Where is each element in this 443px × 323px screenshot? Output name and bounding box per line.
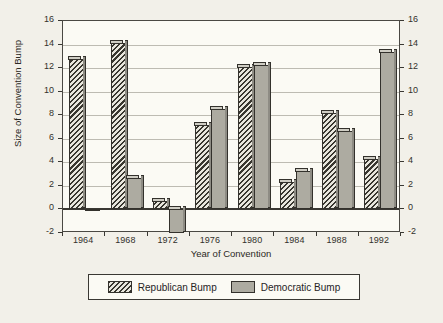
y-tick-label-left: 4 xyxy=(28,156,54,165)
bar-1968-democratic xyxy=(127,178,142,210)
bar-1984-democratic xyxy=(296,171,311,210)
y-tick-label-left: -2 xyxy=(28,227,54,236)
y-tickmark-right xyxy=(400,114,404,115)
bar-top-face xyxy=(168,206,181,210)
legend-label-republican: Republican Bump xyxy=(138,282,217,293)
y-axis-title: Size of Convention Bump xyxy=(12,14,23,174)
legend-swatch-democratic-icon xyxy=(231,281,255,293)
y-tick-label-right: 2 xyxy=(408,180,434,189)
bar-side-face xyxy=(225,106,228,208)
legend-item-republican: Republican Bump xyxy=(108,281,217,293)
x-tick-label-1988: 1988 xyxy=(317,235,357,246)
y-tick-label-left: 10 xyxy=(28,86,54,95)
bar-top-face xyxy=(152,198,165,202)
bar-1972-democratic xyxy=(169,209,184,233)
y-tickmark-right xyxy=(400,138,404,139)
bar-top-face xyxy=(321,110,334,114)
x-tick-label-1992: 1992 xyxy=(359,235,399,246)
y-tick-label-right: 14 xyxy=(408,39,434,48)
x-tickmark xyxy=(400,232,401,236)
bar-top-face xyxy=(68,56,81,60)
chart-legend: Republican Bump Democratic Bump xyxy=(88,274,360,300)
y-tickmark-right xyxy=(400,185,404,186)
x-tick-label-1964: 1964 xyxy=(63,235,103,246)
bar-top-face xyxy=(363,156,376,160)
bar-top-face xyxy=(110,40,123,44)
y-tick-label-right: -2 xyxy=(408,227,434,236)
y-tickmark-right xyxy=(400,44,404,45)
y-tick-label-left: 12 xyxy=(28,62,54,71)
bar-side-face xyxy=(394,49,397,209)
x-tick-label-1976: 1976 xyxy=(190,235,230,246)
bar-side-face xyxy=(268,62,271,209)
plot-area xyxy=(62,20,400,232)
legend-item-democratic: Democratic Bump xyxy=(231,281,340,293)
y-tick-label-left: 16 xyxy=(28,15,54,24)
bar-1980-democratic xyxy=(254,65,269,210)
bar-1976-republican xyxy=(195,125,210,210)
y-tick-label-right: 8 xyxy=(408,109,434,118)
x-axis-tick-labels: 19641968197219761980198419881992 xyxy=(62,235,400,249)
bar-side-face xyxy=(83,56,86,209)
y-tickmark-right xyxy=(400,208,404,209)
y-tick-label-left: 6 xyxy=(28,133,54,142)
y-tick-label-right: 6 xyxy=(408,133,434,142)
bar-1992-republican xyxy=(364,159,379,210)
x-axis-title: Year of Convention xyxy=(62,248,400,259)
legend-swatch-republican-icon xyxy=(108,281,132,293)
bar-top-face xyxy=(279,179,292,183)
y-tickmark-right xyxy=(400,20,404,21)
x-tick-label-1968: 1968 xyxy=(105,235,145,246)
bar-side-face xyxy=(310,168,313,209)
bar-top-face xyxy=(237,64,250,68)
x-tick-label-1980: 1980 xyxy=(232,235,272,246)
y-tickmark-right xyxy=(400,161,404,162)
bar-1992-democratic xyxy=(380,52,395,210)
bar-top-face xyxy=(253,62,266,66)
bar-top-face xyxy=(337,128,350,132)
bar-1980-republican xyxy=(238,67,253,210)
gridline xyxy=(63,21,399,22)
bar-1988-republican xyxy=(322,113,337,210)
y-tick-label-right: 10 xyxy=(408,86,434,95)
bar-1964-republican xyxy=(69,59,84,210)
bar-top-face xyxy=(379,49,392,53)
bar-1984-republican xyxy=(280,182,295,209)
legend-label-democratic: Democratic Bump xyxy=(261,282,340,293)
y-tickmark-right xyxy=(400,67,404,68)
x-tick-label-1984: 1984 xyxy=(274,235,314,246)
y-tick-label-right: 4 xyxy=(408,156,434,165)
y-tick-label-left: 2 xyxy=(28,180,54,189)
y-tick-label-right: 12 xyxy=(408,62,434,71)
x-tick-label-1972: 1972 xyxy=(148,235,188,246)
bar-1972-republican xyxy=(153,201,168,209)
y-tick-label-left: 14 xyxy=(28,39,54,48)
bar-top-face xyxy=(295,168,308,172)
bar-side-face xyxy=(352,128,355,209)
bar-top-face xyxy=(210,106,223,110)
bar-top-face xyxy=(126,175,139,179)
bar-1988-democratic xyxy=(338,131,353,210)
bar-side-face xyxy=(183,206,186,232)
y-tickmark-right xyxy=(400,91,404,92)
y-tick-label-right: 0 xyxy=(408,203,434,212)
bar-1964-democratic xyxy=(85,209,100,211)
y-tick-label-left: 0 xyxy=(28,203,54,212)
bar-top-face xyxy=(194,122,207,126)
bar-1976-democratic xyxy=(211,109,226,209)
chart-figure: Size of Convention Bump 1614121086420-2 … xyxy=(0,0,443,323)
bar-side-face xyxy=(141,175,144,209)
y-tick-label-left: 8 xyxy=(28,109,54,118)
y-tick-label-right: 16 xyxy=(408,15,434,24)
bar-1968-republican xyxy=(111,43,126,209)
